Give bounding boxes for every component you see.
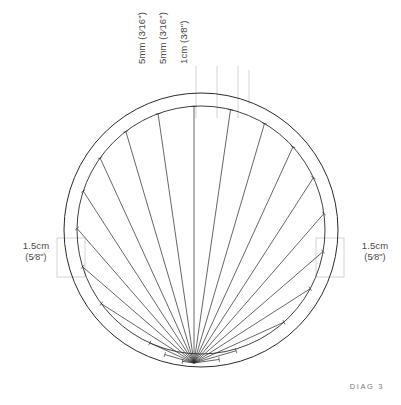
fan-ray (158, 114, 194, 363)
callout-right-value: 1.5cm (362, 240, 388, 251)
callout-right-imperial: (5⁄8") (352, 252, 398, 263)
fan-ray (194, 147, 293, 363)
callout-left-imperial: (5⁄8") (14, 252, 58, 263)
fan-ray (194, 123, 264, 363)
fan-rays-group (75, 106, 326, 364)
fan-ray (100, 158, 194, 363)
callout-band-width-right: 1.5cm (5⁄8") (352, 240, 398, 263)
callout-left-value: 1.5cm (23, 240, 49, 251)
fan-ray (194, 252, 323, 363)
fan-ray (83, 267, 194, 363)
guide-lines-group (57, 66, 344, 277)
fan-ray (194, 289, 310, 363)
fan-ray (194, 110, 231, 363)
concentric-rings-group (64, 93, 338, 367)
callout-band-width-left: 1.5cm (5⁄8") (14, 240, 58, 263)
diagram-canvas: 5mm (3⁄16") 5mm (3⁄16") 1cm (3⁄8") 1.5cm… (0, 0, 401, 405)
band-bracket-left (57, 238, 85, 277)
fan-ray (77, 228, 194, 363)
outer-ring (64, 93, 338, 367)
ray-tick (219, 357, 220, 362)
fan-ray (194, 178, 313, 363)
fan-ray (126, 131, 194, 363)
band-bracket-right (316, 238, 344, 277)
callout-pleat-depth: 1cm (3⁄8") (178, 21, 242, 64)
fan-ray (194, 214, 324, 363)
diagram-caption: DIAG 3 (350, 382, 384, 391)
